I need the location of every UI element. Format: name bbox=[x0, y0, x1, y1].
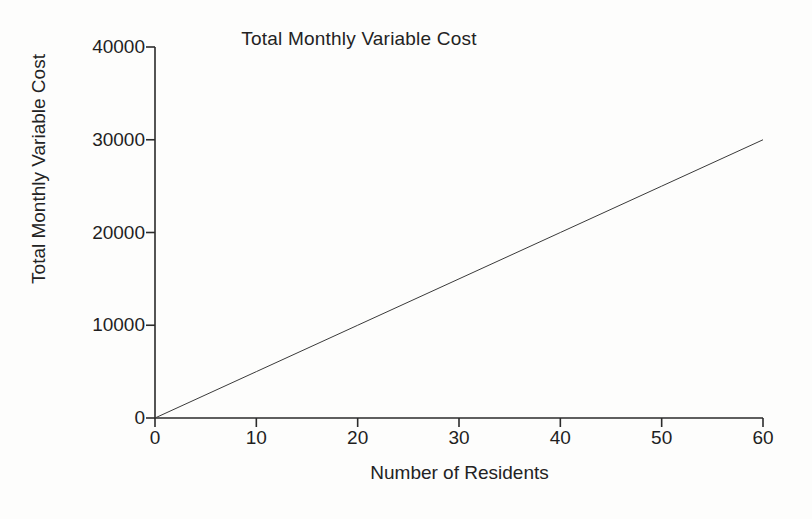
y-tick-label: 10000 bbox=[0, 314, 159, 336]
x-tick-label: 10 bbox=[221, 427, 291, 449]
y-tick-label: 0 bbox=[0, 407, 159, 429]
chart-figure: Total Monthly Variable Cost Total Monthl… bbox=[0, 0, 812, 519]
y-tick-label: 40000 bbox=[0, 36, 159, 58]
tick-marks bbox=[146, 47, 763, 427]
x-tick-label: 20 bbox=[323, 427, 393, 449]
axis-lines bbox=[155, 47, 763, 418]
y-tick-label: 20000 bbox=[0, 222, 159, 244]
x-tick-label: 40 bbox=[525, 427, 595, 449]
data-series bbox=[155, 140, 763, 418]
x-tick-label: 60 bbox=[728, 427, 798, 449]
x-tick-label: 30 bbox=[424, 427, 494, 449]
x-tick-label: 50 bbox=[627, 427, 697, 449]
x-tick-label: 0 bbox=[120, 427, 190, 449]
y-tick-label: 30000 bbox=[0, 129, 159, 151]
